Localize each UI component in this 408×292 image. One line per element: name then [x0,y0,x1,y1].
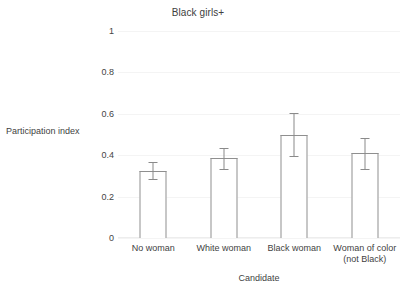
y-axis-title: Participation index [6,126,80,136]
chart-container: Black girls+ Participation index 00.20.4… [0,0,408,292]
bar[interactable] [210,158,237,238]
x-axis-tick-label: Woman of color(not Black) [316,243,408,265]
error-bar-line [364,138,365,169]
error-bar-cap-upper [149,162,158,163]
error-bar-line [223,148,224,169]
bar-group[interactable] [330,31,401,238]
x-axis-tick-label-line: Woman of color [333,243,396,253]
error-bar-cap-upper [360,138,369,139]
error-bar-cap-lower [149,179,158,180]
x-axis-tick-label-line: White woman [196,243,251,253]
x-axis-tick-label-line: (not Black) [316,254,408,265]
gridline [118,238,400,239]
y-axis-tick-label: 0.4 [74,150,114,160]
y-axis-tick-label: 1 [74,26,114,36]
error-bar-cap-lower [219,169,228,170]
y-axis-tick-label: 0.2 [74,192,114,202]
x-axis-tick-label-line: Black woman [267,243,321,253]
bar-group[interactable] [118,31,189,238]
error-bar-line [294,113,295,156]
x-axis-title: Candidate [118,273,400,283]
chart-title: Black girls+ [0,7,408,18]
error-bar-cap-upper [290,113,299,114]
bar-group[interactable] [259,31,330,238]
x-axis-tick-label-line: No woman [132,243,175,253]
y-axis-tick-label: 0.6 [74,109,114,119]
bar-group[interactable] [189,31,260,238]
error-bar-cap-lower [290,156,299,157]
error-bar-cap-upper [219,148,228,149]
error-bar-line [153,162,154,179]
bar[interactable] [140,171,167,238]
plot-area: 00.20.40.60.81 [118,31,400,238]
y-axis-tick-label: 0 [74,233,114,243]
y-axis-tick-label: 0.8 [74,67,114,77]
chart-title-text: Black girls+ [172,7,225,18]
error-bar-cap-lower [360,169,369,170]
